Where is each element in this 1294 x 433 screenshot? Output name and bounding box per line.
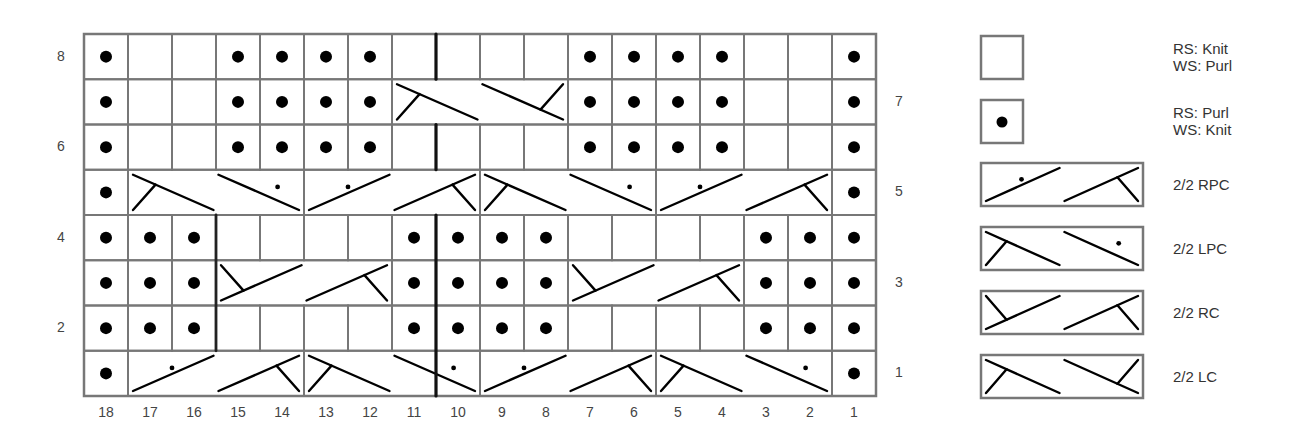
column-number: 12 (360, 404, 380, 420)
purl-dot-icon (540, 277, 552, 289)
column-number: 6 (624, 404, 644, 420)
purl-dot-icon (144, 322, 156, 334)
purl-dot-icon (628, 51, 640, 63)
column-number: 8 (536, 404, 556, 420)
purl-dot-icon (232, 96, 244, 108)
row-number: 2 (57, 319, 65, 335)
lpc-purl-dot-icon (627, 185, 632, 190)
row-number: 3 (895, 274, 903, 290)
column-number: 14 (272, 404, 292, 420)
purl-dot-icon (760, 322, 772, 334)
purl-dot-icon (100, 232, 112, 244)
purl-dot-icon (188, 277, 200, 289)
purl-dot-icon (452, 232, 464, 244)
purl-dot-icon (496, 232, 508, 244)
purl-dot-icon (848, 277, 860, 289)
legend-rc-swatch (981, 291, 1143, 334)
row-number: 6 (57, 138, 65, 154)
column-number: 3 (756, 404, 776, 420)
column-number: 2 (800, 404, 820, 420)
purl-dot-icon (364, 96, 376, 108)
purl-dot-icon (320, 51, 332, 63)
purl-dot-icon (364, 51, 376, 63)
purl-dot-icon (452, 277, 464, 289)
purl-dot-icon (364, 141, 376, 153)
column-number: 17 (140, 404, 160, 420)
purl-dot-icon (848, 367, 860, 379)
purl-dot-icon (716, 96, 728, 108)
purl-dot-icon (672, 96, 684, 108)
legend-label: 2/2 RC (1173, 304, 1220, 321)
legend-label: 2/2 LC (1173, 368, 1217, 385)
purl-dot-icon (672, 51, 684, 63)
purl-dot-icon (584, 141, 596, 153)
purl-dot-icon (997, 117, 1008, 128)
purl-dot-icon (320, 141, 332, 153)
purl-dot-icon (276, 96, 288, 108)
purl-dot-icon (188, 232, 200, 244)
rpc-purl-dot-icon (522, 366, 527, 371)
purl-dot-icon (232, 141, 244, 153)
purl-dot-icon (584, 51, 596, 63)
row-number: 1 (895, 364, 903, 380)
purl-dot-icon (276, 141, 288, 153)
purl-dot-icon (496, 277, 508, 289)
purl-dot-icon (760, 277, 772, 289)
column-number: 15 (228, 404, 248, 420)
purl-dot-icon (804, 277, 816, 289)
purl-dot-icon (496, 322, 508, 334)
legend-label: 2/2 RPC (1173, 176, 1230, 193)
purl-dot-icon (848, 322, 860, 334)
purl-dot-icon (540, 322, 552, 334)
purl-dot-icon (320, 96, 332, 108)
column-number: 10 (448, 404, 468, 420)
purl-dot-icon (100, 141, 112, 153)
purl-dot-icon (804, 322, 816, 334)
rpc-purl-dot-icon (1019, 177, 1024, 182)
column-number: 11 (404, 404, 424, 420)
column-number: 16 (184, 404, 204, 420)
purl-dot-icon (408, 322, 420, 334)
column-number: 7 (580, 404, 600, 420)
purl-dot-icon (100, 96, 112, 108)
row-number: 7 (895, 93, 903, 109)
column-number: 1 (844, 404, 864, 420)
rpc-purl-dot-icon (698, 185, 703, 190)
legend-lpc-swatch (981, 227, 1143, 270)
lpc-purl-dot-icon (275, 185, 280, 190)
purl-dot-icon (848, 232, 860, 244)
purl-dot-icon (848, 96, 860, 108)
purl-dot-icon (804, 232, 816, 244)
purl-dot-icon (144, 277, 156, 289)
rpc-purl-dot-icon (346, 185, 351, 190)
column-number: 18 (96, 404, 116, 420)
purl-dot-icon (848, 141, 860, 153)
purl-dot-icon (540, 232, 552, 244)
purl-dot-icon (276, 51, 288, 63)
purl-dot-icon (408, 232, 420, 244)
purl-dot-icon (144, 232, 156, 244)
purl-dot-icon (188, 322, 200, 334)
purl-dot-icon (760, 232, 772, 244)
lpc-purl-dot-icon (1116, 241, 1121, 246)
purl-dot-icon (716, 141, 728, 153)
purl-dot-icon (584, 96, 596, 108)
purl-dot-icon (628, 96, 640, 108)
legend-label: RS: PurlWS: Knit (1173, 104, 1231, 138)
legend-lc-swatch (981, 355, 1143, 398)
purl-dot-icon (452, 322, 464, 334)
purl-dot-icon (848, 51, 860, 63)
purl-dot-icon (408, 277, 420, 289)
purl-dot-icon (716, 51, 728, 63)
column-number: 9 (492, 404, 512, 420)
legend-label: RS: KnitWS: Purl (1173, 40, 1232, 74)
column-number: 5 (668, 404, 688, 420)
purl-dot-icon (100, 186, 112, 198)
row-number: 5 (895, 183, 903, 199)
lpc-purl-dot-icon (451, 366, 456, 371)
lpc-purl-dot-icon (803, 366, 808, 371)
purl-dot-icon (100, 322, 112, 334)
column-number: 13 (316, 404, 336, 420)
legend-label: 2/2 LPC (1173, 240, 1227, 257)
knitting-chart (0, 0, 1294, 433)
